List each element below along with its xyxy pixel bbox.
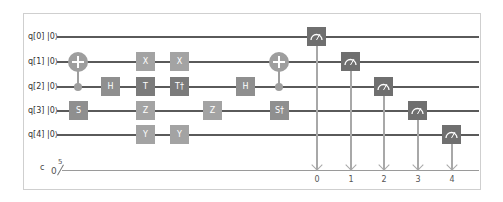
measure-arrow-0 [316, 46, 318, 170]
cbit-index-4: 4 [447, 175, 457, 184]
qubit-label-0: q[0] |0⟩ [28, 32, 58, 42]
qubit-wire-2 [57, 86, 479, 88]
gate-y[interactable]: Y [170, 125, 189, 144]
qubit-label-4: q[4] |0⟩ [28, 130, 58, 140]
cbit-index-3: 3 [413, 175, 423, 184]
qubit-name: q[3] [28, 106, 44, 115]
gate-s[interactable]: S [69, 101, 88, 120]
meter-icon [307, 27, 326, 46]
qubit-name: q[1] [28, 57, 44, 66]
qubit-label-2: q[2] |0⟩ [28, 82, 58, 92]
measure-2-meter-icon[interactable] [374, 77, 393, 96]
measure-4-meter-icon[interactable] [442, 125, 461, 144]
qubit-label-3: q[3] |0⟩ [28, 106, 58, 116]
cbit-index-2: 2 [379, 175, 389, 184]
gate-z[interactable]: Z [136, 101, 155, 120]
gate-h[interactable]: H [101, 77, 120, 96]
gate-y[interactable]: Y [136, 125, 155, 144]
measure-0-meter-icon[interactable] [307, 27, 326, 46]
gate-z[interactable]: Z [203, 101, 222, 120]
gate-x[interactable]: X [170, 52, 189, 71]
gate-t[interactable]: T [136, 77, 155, 96]
measure-arrow-1 [350, 71, 352, 170]
qubit-wire-1 [57, 61, 479, 63]
qubit-name: q[2] [28, 82, 44, 91]
qubit-wire-0 [57, 36, 479, 38]
cnot-control-dot-icon[interactable] [74, 83, 82, 91]
classical-wire [62, 170, 479, 171]
cbit-index-1: 1 [346, 175, 356, 184]
gate-x[interactable]: X [136, 52, 155, 71]
cbit-index-0: 0 [312, 175, 322, 184]
meter-icon [408, 101, 427, 120]
measure-1-meter-icon[interactable] [341, 52, 360, 71]
measure-3-meter-icon[interactable] [408, 101, 427, 120]
gate-h[interactable]: H [236, 77, 255, 96]
meter-icon [374, 77, 393, 96]
cnot-target-plus-circle-icon[interactable] [68, 52, 88, 72]
gate-tdg[interactable]: T† [170, 77, 189, 96]
cnot-control-dot-icon[interactable] [275, 83, 283, 91]
meter-icon [341, 52, 360, 71]
gate-sdg[interactable]: S† [270, 101, 289, 120]
creg-label: c [40, 163, 44, 172]
qubit-name: q[0] [28, 32, 44, 41]
qubit-label-1: q[1] |0⟩ [28, 57, 58, 67]
qubit-name: q[4] [28, 130, 44, 139]
meter-icon [442, 125, 461, 144]
cnot-target-plus-circle-icon[interactable] [269, 52, 289, 72]
qubit-wire-4 [57, 134, 479, 136]
